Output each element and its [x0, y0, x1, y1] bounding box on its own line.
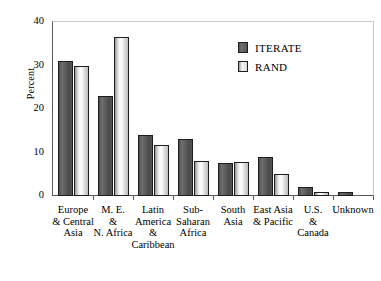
legend-item-rand: RAND	[238, 57, 348, 76]
bar-iterate	[138, 135, 153, 196]
bar-rand	[314, 192, 329, 196]
y-tick-label: 0	[18, 190, 44, 200]
x-tick-mark	[373, 196, 374, 200]
x-tick-mark	[333, 196, 334, 200]
legend-item-iterate: ITERATE	[238, 38, 348, 57]
bar-group	[98, 22, 129, 196]
bar-iterate	[218, 163, 233, 196]
x-category-label: Unknown	[327, 204, 379, 216]
bar-rand	[194, 161, 209, 196]
legend-swatch-icon-iterate	[238, 42, 248, 53]
x-tick-mark	[173, 196, 174, 200]
x-tick-mark	[133, 196, 134, 200]
bar-iterate	[298, 187, 313, 196]
y-tick-label: 40	[18, 16, 44, 26]
x-tick-mark	[293, 196, 294, 200]
y-tick-label: 20	[18, 103, 44, 113]
y-tick-label: 30	[18, 60, 44, 70]
bar-rand	[74, 66, 89, 197]
bar-group	[58, 22, 89, 196]
bar-chart: Percent 010203040 Europe & Central AsiaM…	[0, 0, 381, 281]
x-tick-mark	[213, 196, 214, 200]
bar-iterate	[98, 96, 113, 196]
bar-iterate	[178, 139, 193, 196]
bar-rand	[234, 162, 249, 196]
bar-rand	[274, 174, 289, 196]
bar-iterate	[258, 157, 273, 196]
y-tick-label: 10	[18, 147, 44, 157]
legend-label-iterate: ITERATE	[255, 42, 302, 54]
x-tick-mark	[253, 196, 254, 200]
chart-legend: ITERATE RAND	[238, 38, 348, 76]
bar-group	[178, 22, 209, 196]
bar-iterate	[58, 61, 73, 196]
legend-label-rand: RAND	[255, 61, 287, 73]
x-tick-mark	[93, 196, 94, 200]
bar-rand	[154, 145, 169, 196]
bar-group	[138, 22, 169, 196]
legend-swatch-icon-rand	[238, 61, 248, 72]
bar-iterate	[338, 192, 353, 196]
bar-rand	[114, 37, 129, 196]
